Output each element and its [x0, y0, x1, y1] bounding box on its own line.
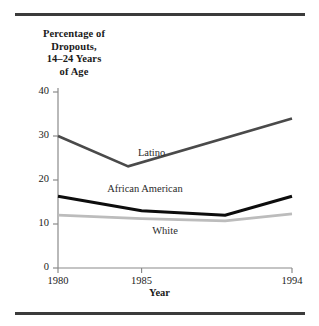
- series-label-african-american: African American: [107, 183, 183, 194]
- series-label-latino: Latino: [138, 147, 165, 158]
- y-axis-tick-label: 10: [27, 217, 49, 228]
- series-label-white: White: [152, 225, 178, 236]
- x-axis-tick-label: 1985: [120, 275, 164, 286]
- series-line-african-american: [58, 196, 292, 215]
- figure-container: Percentage of Dropouts, 14–24 Years of A…: [0, 0, 319, 326]
- y-axis-tick-label: 0: [27, 261, 49, 272]
- x-axis-tick-label: 1980: [36, 275, 80, 286]
- y-axis-tick-label: 20: [27, 173, 49, 184]
- series-line-white: [58, 214, 292, 221]
- x-axis-tick-label: 1994: [270, 275, 314, 286]
- x-axis-title: Year: [0, 287, 319, 298]
- chart-series: [58, 118, 292, 221]
- chart-axes: [53, 88, 292, 273]
- series-line-latino: [58, 118, 292, 166]
- y-axis-tick-label: 40: [27, 85, 49, 96]
- y-axis-tick-label: 30: [27, 129, 49, 140]
